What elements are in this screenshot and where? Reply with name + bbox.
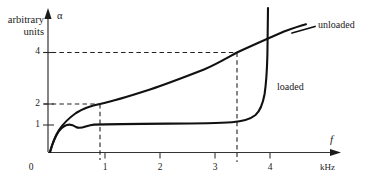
- series-label-unloaded: unloaded: [318, 20, 355, 30]
- chart-canvas: [0, 0, 370, 182]
- curve-loaded: [50, 8, 268, 152]
- y-tick-label-1: 1: [28, 120, 40, 130]
- y-axis-caption-line2: units: [0, 26, 44, 38]
- y-tick-label-2: 2: [28, 99, 40, 109]
- x-tick-label-0: 0: [25, 163, 37, 173]
- x-axis-arrowhead: [330, 149, 341, 156]
- x-axis-units-khz: kHz: [320, 163, 335, 172]
- acoustic-attenuation-chart: arbitrary units α 4 2 1 0 1 2 3 4 f kHz …: [0, 0, 370, 182]
- x-tick-label-2: 2: [154, 163, 166, 173]
- dashed-guides-group: [44, 53, 237, 163]
- x-tick-marks: [105, 153, 270, 159]
- x-axis-symbol-f: f: [330, 134, 333, 145]
- x-tick-label-4: 4: [264, 163, 276, 173]
- y-axis-symbol-alpha: α: [57, 11, 63, 22]
- data-curves-group: [50, 8, 306, 152]
- x-tick-label-3: 3: [209, 163, 221, 173]
- y-tick-label-4: 4: [28, 47, 40, 57]
- series-label-loaded: loaded: [277, 82, 304, 92]
- x-tick-label-1: 1: [99, 163, 111, 173]
- y-axis-caption: arbitrary units: [0, 14, 44, 38]
- y-axis-caption-line1: arbitrary: [0, 14, 44, 26]
- y-axis-arrowhead: [44, 8, 51, 19]
